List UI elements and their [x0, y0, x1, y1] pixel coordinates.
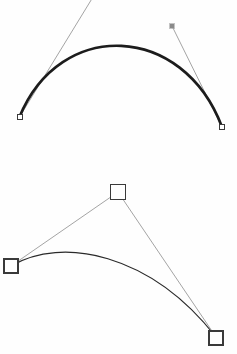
top-cubic-bezier-group: [17, 0, 225, 130]
bottom-quadratic-bezier-left-control-leg[interactable]: [11, 192, 118, 266]
top-cubic-bezier-end-anchor[interactable]: [220, 125, 225, 130]
top-cubic-bezier-start-anchor[interactable]: [17, 115, 22, 120]
bottom-quadratic-bezier-group: [4, 185, 223, 346]
bezier-figure-canvas: [0, 0, 237, 354]
top-cubic-bezier-curve-path[interactable]: [20, 46, 223, 127]
bottom-quadratic-bezier-end-anchor[interactable]: [209, 331, 223, 345]
bezier-diagram-svg: [0, 0, 237, 354]
bottom-quadratic-bezier-right-control-leg[interactable]: [118, 192, 216, 337]
bottom-quadratic-bezier-apex-control-point[interactable]: [111, 185, 126, 200]
bottom-quadratic-bezier-curve-path[interactable]: [11, 252, 216, 337]
top-cubic-bezier-right-control-handle[interactable]: [170, 24, 175, 29]
top-cubic-bezier-left-tangent-handle[interactable]: [20, 0, 94, 117]
bottom-quadratic-bezier-start-anchor[interactable]: [4, 259, 18, 273]
